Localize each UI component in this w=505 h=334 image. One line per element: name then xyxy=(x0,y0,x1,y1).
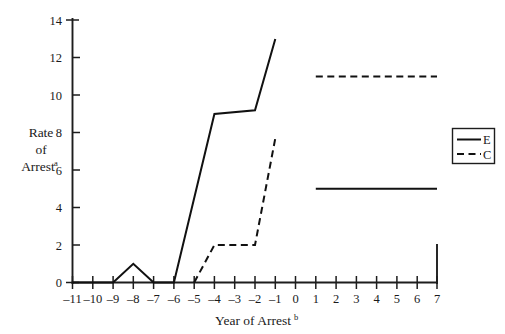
x-ticklabel--11: –11 xyxy=(62,292,81,306)
y-ticklabel-0: 0 xyxy=(56,276,62,290)
x-ticklabel--2: –2 xyxy=(248,292,262,306)
x-axis-tick-labels: –11 –10 –9 –8 –7 –6 –5 –4 –3 –2 –1 0 1 2… xyxy=(62,292,440,306)
legend-label-c: C xyxy=(483,148,491,162)
x-ticklabel--3: –3 xyxy=(227,292,241,306)
x-ticklabel-0: 0 xyxy=(292,292,298,306)
y-ticklabel-10: 10 xyxy=(50,89,63,103)
y-ticklabel-14: 14 xyxy=(50,14,63,28)
y-axis-tick-labels: 0 2 4 6 8 10 12 14 xyxy=(50,14,63,291)
legend-label-e: E xyxy=(483,133,491,147)
x-ticklabel-6: 6 xyxy=(414,292,420,306)
series-c-main-line xyxy=(194,138,275,282)
x-ticklabel--7: –7 xyxy=(146,292,160,306)
x-ticklabel-1: 1 xyxy=(313,292,319,306)
chart-legend: E C xyxy=(453,129,495,164)
y-axis-title-line1: Rate xyxy=(29,125,54,140)
x-ticklabel--4: –4 xyxy=(207,292,221,306)
x-ticklabel--6: –6 xyxy=(167,292,181,306)
x-ticklabel-4: 4 xyxy=(373,292,380,306)
y-axis-title-line3: Arrest xyxy=(21,159,55,174)
x-ticklabel--5: –5 xyxy=(187,292,201,306)
x-ticklabel--10: –10 xyxy=(82,292,102,306)
figure-container: 0 2 4 6 8 10 12 14 xyxy=(0,0,505,334)
y-axis-title-superscript: a xyxy=(54,158,58,168)
y-axis-title: Rate of Arrest a xyxy=(21,125,58,174)
x-ticklabel-2: 2 xyxy=(333,292,339,306)
y-ticklabel-8: 8 xyxy=(56,126,62,140)
arrest-rate-line-chart: 0 2 4 6 8 10 12 14 xyxy=(0,0,505,334)
y-ticklabel-4: 4 xyxy=(56,201,63,215)
y-ticklabel-2: 2 xyxy=(56,239,62,253)
x-ticklabel--8: –8 xyxy=(126,292,140,306)
x-ticklabel--9: –9 xyxy=(106,292,120,306)
y-ticklabel-12: 12 xyxy=(50,51,63,65)
x-ticklabel-7: 7 xyxy=(434,292,440,306)
x-ticklabel-3: 3 xyxy=(353,292,359,306)
x-ticklabel--1: –1 xyxy=(268,292,282,306)
y-axis-title-line2: of xyxy=(35,142,47,157)
x-axis-title-superscript: b xyxy=(294,312,298,322)
x-ticklabel-5: 5 xyxy=(394,292,400,306)
figure-caption xyxy=(0,324,505,334)
